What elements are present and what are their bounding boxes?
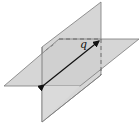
intersecting-planes-diagram: q <box>0 0 140 127</box>
line-q-label: q <box>80 38 87 51</box>
